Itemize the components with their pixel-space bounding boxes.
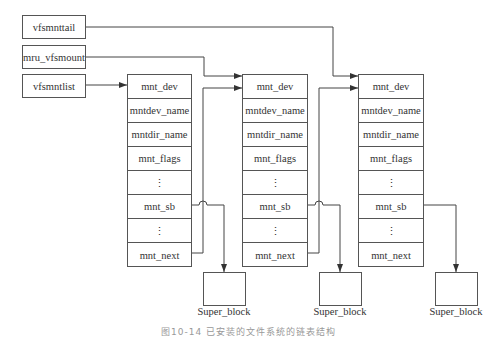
field-mnt-sb: mnt_sb <box>243 195 307 219</box>
field-mnt-next: mnt_next <box>128 243 191 267</box>
super-block-label-2: Super_block <box>300 306 380 317</box>
field-mntdev-name: mntdev_name <box>359 99 423 123</box>
vfsmount-struct-1: mnt_dev mntdev_name mntdir_name mnt_flag… <box>127 74 192 267</box>
field-mntdir-name: mntdir_name <box>128 123 191 147</box>
field-ellipsis: ⋮ <box>359 219 423 243</box>
field-mnt-dev: mnt_dev <box>243 75 307 99</box>
vfsmount-struct-2: mnt_dev mntdev_name mntdir_name mnt_flag… <box>242 74 308 267</box>
vfsmnttail-box: vfsmnttail <box>22 15 86 39</box>
field-mnt-flags: mnt_flags <box>128 147 191 171</box>
field-ellipsis: ⋮ <box>128 219 191 243</box>
field-mntdev-name: mntdev_name <box>128 99 191 123</box>
vfsmnttail-label: vfsmnttail <box>33 22 76 33</box>
super-block-label-1: Super_block <box>184 306 264 317</box>
field-mnt-sb: mnt_sb <box>359 195 423 219</box>
field-ellipsis: ⋮ <box>128 171 191 195</box>
field-mnt-dev: mnt_dev <box>128 75 191 99</box>
field-mntdev-name: mntdev_name <box>243 99 307 123</box>
field-mnt-flags: mnt_flags <box>243 147 307 171</box>
field-mntdir-name: mntdir_name <box>243 123 307 147</box>
mru-vfsmount-label: mru_vfsmount <box>23 52 85 63</box>
field-mnt-next: mnt_next <box>243 243 307 267</box>
vfsmntlist-label: vfsmntlist <box>33 81 75 92</box>
super-block-box-3 <box>435 272 478 306</box>
field-ellipsis: ⋮ <box>243 171 307 195</box>
super-block-box-1 <box>203 272 246 306</box>
field-ellipsis: ⋮ <box>243 219 307 243</box>
field-mnt-dev: mnt_dev <box>359 75 423 99</box>
field-mntdir-name: mntdir_name <box>359 123 423 147</box>
vfsmount-struct-3: mnt_dev mntdev_name mntdir_name mnt_flag… <box>358 74 424 267</box>
mru-vfsmount-box: mru_vfsmount <box>22 45 86 69</box>
figure-caption: 图10-14 已安装的文件系统的链表结构 <box>0 325 497 338</box>
vfsmntlist-box: vfsmntlist <box>22 74 86 98</box>
field-mnt-sb: mnt_sb <box>128 195 191 219</box>
field-mnt-flags: mnt_flags <box>359 147 423 171</box>
field-ellipsis: ⋮ <box>359 171 423 195</box>
super-block-box-2 <box>319 272 362 306</box>
super-block-label-3: Super_block <box>416 306 496 317</box>
field-mnt-next: mnt_next <box>359 243 423 267</box>
